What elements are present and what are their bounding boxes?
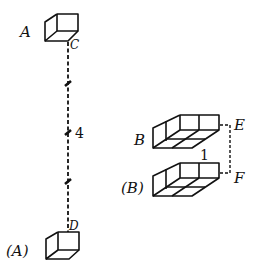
cube-a bbox=[45, 14, 78, 41]
label-a-paren: (A) bbox=[6, 242, 29, 260]
rope-ef bbox=[220, 125, 230, 173]
label-f: F bbox=[233, 169, 245, 187]
label-c: C bbox=[70, 38, 79, 52]
diagram-svg: A C 4 (A) D B (B) E F bbox=[0, 0, 259, 274]
diagram-canvas: A C 4 (A) D B (B) E F bbox=[0, 0, 259, 274]
label-b-paren: (B) bbox=[121, 179, 144, 197]
block-b-prime bbox=[153, 163, 219, 196]
rope-cd bbox=[65, 42, 71, 232]
cube-a-prime bbox=[46, 232, 79, 259]
length-cd-label: 4 bbox=[75, 125, 84, 141]
label-e: E bbox=[233, 116, 245, 134]
label-d: D bbox=[68, 219, 79, 233]
label-a: A bbox=[18, 23, 31, 41]
block-b bbox=[153, 115, 219, 148]
label-b: B bbox=[133, 131, 145, 149]
length-ef-label: 1 bbox=[200, 147, 209, 163]
